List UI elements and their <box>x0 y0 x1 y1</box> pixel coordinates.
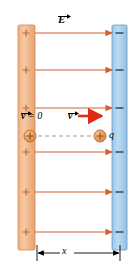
final-velocity-label: v <box>68 111 72 121</box>
electric-field-parallel-plates-figure: E v = 0 v q x <box>0 0 134 267</box>
charge-final <box>94 130 106 142</box>
electric-field-label: E <box>58 14 65 25</box>
initial-velocity-symbol: v <box>21 110 25 121</box>
negative-plate <box>112 25 127 250</box>
distance-label: x <box>62 246 66 256</box>
final-velocity-symbol: v <box>68 110 72 121</box>
initial-velocity-label: v = 0 <box>21 111 42 121</box>
distance-dimension-line <box>37 245 120 261</box>
charge-label: q <box>109 130 114 140</box>
electric-field-symbol: E <box>58 13 65 25</box>
initial-velocity-value: = 0 <box>25 110 42 121</box>
charge-initial <box>24 130 36 142</box>
